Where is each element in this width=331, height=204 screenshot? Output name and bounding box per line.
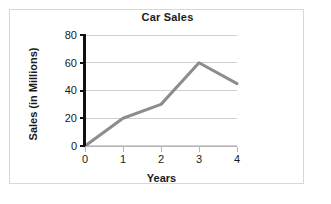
- x-tick-label-1: 1: [113, 153, 133, 165]
- x-tick-label-0: 0: [75, 153, 95, 165]
- y-tick-label-40: 40: [47, 84, 77, 96]
- y-axis-title: Sales (in Millions): [27, 35, 39, 153]
- x-tick-label-3: 3: [189, 153, 209, 165]
- y-tick-20: [80, 117, 86, 119]
- plot-area: [85, 35, 237, 146]
- x-tick-2: [161, 147, 162, 152]
- chart-title: Car Sales: [95, 11, 240, 23]
- chart-figure: Car Sales Sales (in Millions) Years 80 6…: [0, 0, 331, 204]
- x-tick-1: [123, 147, 124, 152]
- y-tick-label-20: 20: [47, 112, 77, 124]
- x-tick-3: [199, 147, 200, 152]
- x-tick-4: [237, 147, 238, 152]
- x-tick-label-2: 2: [151, 153, 171, 165]
- y-tick-80: [80, 34, 86, 36]
- data-series-line: [85, 35, 237, 146]
- y-tick-label-0: 0: [47, 140, 77, 152]
- x-axis-title: Years: [85, 172, 238, 184]
- y-tick-label-60: 60: [47, 57, 77, 69]
- x-tick-label-4: 4: [227, 153, 247, 165]
- y-tick-60: [80, 62, 86, 64]
- x-tick-0: [85, 147, 86, 152]
- y-tick-label-80: 80: [47, 29, 77, 41]
- y-tick-40: [80, 90, 86, 92]
